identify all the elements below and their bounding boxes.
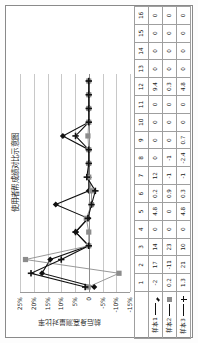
cell-r2-c9: 0 — [163, 131, 177, 149]
table-header-row: 12345678910111213141516 — [135, 7, 149, 339]
legend-cell-1: 样本1 — [149, 292, 163, 339]
cell-r1-c15: 0 — [149, 24, 163, 42]
cell-r1-c12: 9.4 — [149, 78, 163, 96]
cell-r2-c7: -1 — [163, 167, 177, 185]
data-point-s2-12 — [85, 133, 90, 138]
cell-r2-c16: 0 — [163, 7, 177, 25]
data-point-s3-3 — [58, 256, 64, 262]
cell-r1-c10: 0 — [149, 113, 163, 131]
cell-r3-c3: 10 — [177, 238, 191, 256]
legend-label-1: 样本1 — [149, 317, 162, 333]
chart-plot-svg — [20, 75, 130, 293]
cell-r1-c8: 0 — [149, 149, 163, 167]
column-header-7: 7 — [135, 167, 149, 185]
column-header-1: 1 — [135, 274, 149, 292]
cell-r3-c5: 4.8 — [177, 202, 191, 220]
square-marker-icon — [167, 297, 172, 302]
cell-r2-c13: 0 — [163, 60, 177, 78]
data-point-s2-2 — [116, 271, 121, 276]
data-point-s1-12 — [60, 133, 66, 139]
figure-frame: 使用者帮成绩对比示意图 25% 20% 15% 10% 5% 0 -5% -10… — [5, 5, 193, 338]
cell-r3-c11: 0 — [177, 96, 191, 114]
cell-r3-c7: -1 — [177, 167, 191, 185]
series-line-2 — [26, 81, 120, 287]
legend-line-2 — [169, 304, 170, 316]
chart-figure: 使用者帮成绩对比示意图 25% 20% 15% 10% 5% 0 -5% -10… — [6, 6, 194, 339]
y-axis-ticks: 25% 20% 15% 10% 5% 0 -5% -10% -15% 前后身高测… — [20, 293, 130, 339]
cell-r3-c1: 1.3 — [177, 274, 191, 292]
cell-r1-c1: -2 — [149, 274, 163, 292]
cell-r2-c6: 0.9 — [163, 185, 177, 203]
cell-r3-c15: 0 — [177, 24, 191, 42]
column-header-3: 3 — [135, 238, 149, 256]
column-header-9: 9 — [135, 131, 149, 149]
column-header-14: 14 — [135, 42, 149, 60]
cell-r3-c6: 0.3 — [177, 185, 191, 203]
column-header-16: 16 — [135, 7, 149, 25]
cell-r2-c8: -1 — [163, 149, 177, 167]
cell-r2-c1: 0.2 — [163, 274, 177, 292]
data-point-s2-5 — [86, 229, 91, 234]
cell-r1-c2: 17 — [149, 256, 163, 274]
column-header-4: 4 — [135, 220, 149, 238]
cell-r2-c11: 0 — [163, 96, 177, 114]
cell-r1-c5: 4.8 — [149, 202, 163, 220]
legend-cell-2: 样本2 — [163, 292, 177, 339]
chart-title: 使用者帮成绩对比示意图 — [9, 6, 20, 339]
column-header-12: 12 — [135, 78, 149, 96]
cell-r1-c16: 0 — [149, 7, 163, 25]
cell-r1-c9: 0 — [149, 131, 163, 149]
table-row: 样本31.3211004.80.3-1-2.40.7004.80000 — [177, 7, 191, 339]
table-row: 样本1-2171404.80.21200009.40000 — [149, 7, 163, 339]
cell-r1-c7: 12 — [149, 167, 163, 185]
cell-r2-c12: 0.3 — [163, 78, 177, 96]
legend-line-3 — [183, 304, 184, 316]
cell-r1-c4: 0 — [149, 220, 163, 238]
cell-r3-c16: 0 — [177, 7, 191, 25]
data-point-s1-3 — [47, 257, 53, 263]
legend-label-2: 样本2 — [163, 318, 176, 334]
screenshot-page: 使用者帮成绩对比示意图 25% 20% 15% 10% 5% 0 -5% -10… — [0, 0, 198, 343]
cell-r2-c3: 23 — [163, 238, 177, 256]
rotated-figure-wrapper: 使用者帮成绩对比示意图 25% 20% 15% 10% 5% 0 -5% -10… — [6, 6, 194, 339]
cell-r1-c6: 0.2 — [149, 185, 163, 203]
cell-r2-c2: -11 — [163, 256, 177, 274]
column-header-10: 10 — [135, 113, 149, 131]
cell-r2-c14: 0 — [163, 42, 177, 60]
column-header-2: 2 — [135, 256, 149, 274]
cell-r1-c11: 0 — [149, 96, 163, 114]
column-header-13: 13 — [135, 60, 149, 78]
cell-r2-c10: 0 — [163, 113, 177, 131]
cell-r3-c13: 0 — [177, 60, 191, 78]
y-axis-title: 前后身高测量对比率 — [19, 318, 119, 328]
cell-r2-c5: 0 — [163, 202, 177, 220]
cell-r3-c12: 4.8 — [177, 78, 191, 96]
column-header-15: 15 — [135, 24, 149, 42]
column-header-11: 11 — [135, 96, 149, 114]
data-point-s3-2 — [28, 270, 34, 276]
gridline — [130, 74, 131, 292]
cross-marker-icon — [181, 296, 187, 302]
cell-r1-c13: 0 — [149, 60, 163, 78]
diamond-marker-icon — [154, 297, 158, 301]
data-point-s2-3 — [23, 257, 28, 262]
legend-label-3: 样本3 — [177, 318, 190, 334]
cell-r3-c14: 0 — [177, 42, 191, 60]
cell-r3-c9: 0.7 — [177, 131, 191, 149]
cell-r2-c4: 0 — [163, 220, 177, 238]
column-header-5: 5 — [135, 202, 149, 220]
table-row: 样本20.2-1123000.9-1-10000.30000 — [163, 7, 177, 339]
cell-r2-c15: 0 — [163, 24, 177, 42]
data-table-body: 12345678910111213141516样本1-2171404.80.21… — [135, 7, 191, 339]
table-corner-cell — [135, 292, 149, 339]
cell-r3-c4: 0 — [177, 220, 191, 238]
cell-r1-c14: 0 — [149, 42, 163, 60]
cell-r3-c2: 21 — [177, 256, 191, 274]
cell-r3-c10: 0 — [177, 113, 191, 131]
data-table: 12345678910111213141516样本1-2171404.80.21… — [134, 6, 191, 339]
cell-r1-c3: 14 — [149, 238, 163, 256]
column-header-6: 6 — [135, 185, 149, 203]
cell-r3-c8: -2.4 — [177, 149, 191, 167]
legend-cell-3: 样本3 — [177, 292, 191, 339]
column-header-8: 8 — [135, 149, 149, 167]
